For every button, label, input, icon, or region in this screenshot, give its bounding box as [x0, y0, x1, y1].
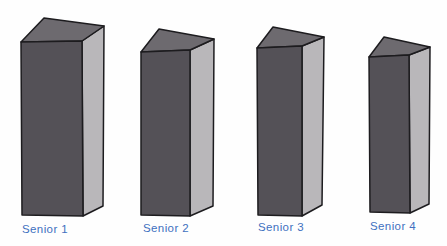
bar-senior-1: Senior 1 — [21, 18, 104, 235]
chart-canvas: Senior 1Senior 2Senior 3Senior 4 — [0, 0, 447, 246]
bar-senior-4: Senior 4 — [369, 37, 430, 232]
bar-senior-1-front-face — [21, 41, 83, 216]
bar-label-senior-2: Senior 2 — [143, 222, 189, 234]
bar-senior-2-side-face — [190, 39, 214, 216]
bar-label-senior-1: Senior 1 — [22, 223, 68, 235]
bar-senior-2: Senior 2 — [141, 29, 214, 234]
bar-label-senior-3: Senior 3 — [258, 221, 304, 233]
figure-3d-bar-chart: Senior 1Senior 2Senior 3Senior 4 — [0, 0, 447, 246]
bar-label-senior-4: Senior 4 — [370, 220, 416, 232]
bar-senior-2-front-face — [141, 50, 190, 216]
bar-senior-4-side-face — [409, 47, 430, 213]
bar-senior-1-side-face — [82, 26, 104, 216]
bar-senior-4-front-face — [369, 55, 410, 213]
bar-senior-3: Senior 3 — [257, 27, 324, 233]
bar-senior-3-side-face — [302, 37, 324, 216]
bar-senior-3-front-face — [257, 46, 302, 216]
